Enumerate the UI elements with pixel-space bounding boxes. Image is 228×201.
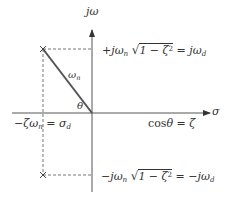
lower-pole-label: −jωn √1 − ζ2 = −jωd bbox=[101, 169, 214, 183]
upper-sub: n bbox=[124, 49, 129, 58]
lower-sub: n bbox=[123, 175, 128, 184]
upper-rhs: = jω bbox=[177, 44, 202, 57]
upper-prefix: +jω bbox=[102, 44, 124, 57]
lower-sqrt-sup: 2 bbox=[168, 170, 173, 179]
natural-frequency-label: ωn bbox=[68, 70, 80, 81]
natural-frequency-symbol: ω bbox=[68, 69, 76, 80]
real-part-rhs-sub: d bbox=[67, 122, 72, 131]
lower-sqrt-content: 1 − ζ bbox=[138, 170, 167, 183]
imaginary-axis-label: jω bbox=[86, 6, 98, 17]
cosine-relation-label: cosθ = ζ bbox=[148, 118, 195, 129]
cos-function: cos bbox=[148, 117, 166, 130]
real-part-rhs: = σ bbox=[46, 117, 66, 130]
real-axis-label: σ bbox=[212, 106, 220, 117]
upper-rhs-sub: d bbox=[202, 49, 207, 58]
cos-relation-rest: θ = ζ bbox=[166, 117, 195, 130]
upper-pole-label: +jωn √1 − ζ2 = jωd bbox=[102, 43, 206, 57]
real-part-label: −ζωn = σd bbox=[14, 118, 71, 130]
real-part-symbol: −ζω bbox=[14, 117, 38, 130]
real-part-sub: n bbox=[38, 122, 43, 131]
natural-frequency-sub: n bbox=[76, 74, 80, 82]
lower-rhs-sub: d bbox=[210, 175, 215, 184]
lower-prefix: −jω bbox=[101, 170, 123, 183]
upper-sqrt-content: 1 − ζ bbox=[139, 44, 168, 57]
angle-label: θ bbox=[77, 101, 83, 111]
upper-sqrt-sup: 2 bbox=[169, 44, 174, 53]
lower-rhs: = −jω bbox=[176, 170, 210, 183]
